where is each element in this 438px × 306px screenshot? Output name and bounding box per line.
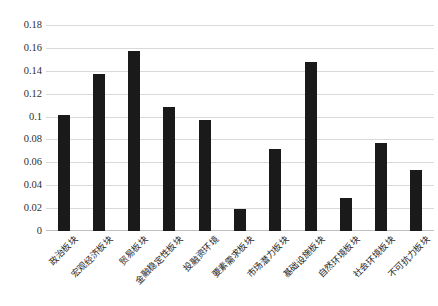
- y-axis-tick-label: 0.08: [0, 134, 42, 145]
- bar-slot: [152, 25, 187, 231]
- bar-series: [46, 25, 434, 231]
- bar-slot: [328, 25, 363, 231]
- bar-slot: [46, 25, 81, 231]
- bar[interactable]: [305, 62, 317, 231]
- y-axis-tick-label: 0.18: [0, 20, 42, 31]
- bar[interactable]: [128, 51, 140, 231]
- bar-chart: 00.020.040.060.080.10.120.140.160.18 政治板…: [0, 0, 438, 306]
- y-axis-tick-label: 0.16: [0, 43, 42, 54]
- bar[interactable]: [163, 107, 175, 231]
- bar-slot: [399, 25, 434, 231]
- bar[interactable]: [234, 209, 246, 231]
- bar-slot: [222, 25, 257, 231]
- y-axis-tick-label: 0.14: [0, 66, 42, 77]
- bar-slot: [258, 25, 293, 231]
- y-axis-tick-label: 0.1: [0, 111, 42, 122]
- y-axis-tick-label: 0.02: [0, 203, 42, 214]
- bar[interactable]: [93, 74, 105, 231]
- y-axis-labels: 00.020.040.060.080.10.120.140.160.18: [0, 25, 42, 231]
- bar[interactable]: [199, 120, 211, 231]
- bar[interactable]: [58, 115, 70, 231]
- bar-slot: [187, 25, 222, 231]
- x-axis-labels: 政治板块宏观经济板块贸易板块金融稳定性板块投融资环境要素需求板块市场潜力板块基础…: [46, 233, 434, 295]
- bar[interactable]: [269, 149, 281, 231]
- bar[interactable]: [340, 198, 352, 231]
- bar-slot: [293, 25, 328, 231]
- y-axis-tick-label: 0.06: [0, 157, 42, 168]
- bar[interactable]: [375, 143, 387, 231]
- y-axis-tick-label: 0: [0, 226, 42, 237]
- bar-slot: [363, 25, 398, 231]
- y-axis-tick-label: 0.12: [0, 88, 42, 99]
- bar-slot: [81, 25, 116, 231]
- bar[interactable]: [410, 170, 422, 231]
- bar-slot: [117, 25, 152, 231]
- y-axis-tick-label: 0.04: [0, 180, 42, 191]
